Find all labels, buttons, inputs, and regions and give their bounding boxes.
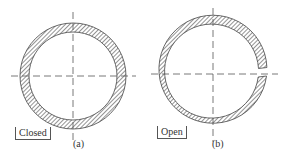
- panel-b-label: (b): [212, 138, 224, 150]
- panel-a-label: (a): [73, 138, 84, 150]
- closed-label: Closed: [15, 127, 51, 140]
- open-label: Open: [157, 126, 187, 139]
